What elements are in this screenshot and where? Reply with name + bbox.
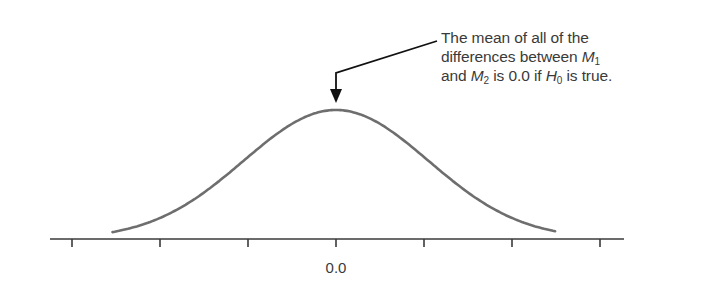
arrowhead-icon bbox=[330, 89, 342, 103]
annotation-text-run: is 0.0 if bbox=[489, 67, 546, 84]
arrow-leader-line bbox=[336, 41, 437, 92]
math-symbol: M bbox=[471, 67, 484, 84]
normal-curve bbox=[113, 110, 556, 232]
annotation-arrow bbox=[330, 41, 437, 103]
annotation-line: and M2 is 0.0 if H0 is true. bbox=[441, 66, 612, 85]
annotation-line: differences between M1 bbox=[441, 47, 612, 66]
x-tick-label: 0.0 bbox=[326, 259, 347, 276]
annotation-text-run: differences between bbox=[441, 48, 582, 65]
annotation-line: The mean of all of the bbox=[441, 28, 612, 47]
annotation-text-run: is true. bbox=[562, 67, 612, 84]
math-symbol: M bbox=[582, 48, 595, 65]
annotation-text-run: The mean of all of the bbox=[441, 29, 589, 46]
annotation-text: The mean of all of thedifferences betwee… bbox=[441, 28, 612, 85]
annotation-text-run: and bbox=[441, 67, 471, 84]
math-symbol: H bbox=[546, 67, 557, 84]
x-axis-ticks bbox=[72, 239, 600, 247]
x-axis-tick-labels: 0.0 bbox=[326, 259, 347, 276]
